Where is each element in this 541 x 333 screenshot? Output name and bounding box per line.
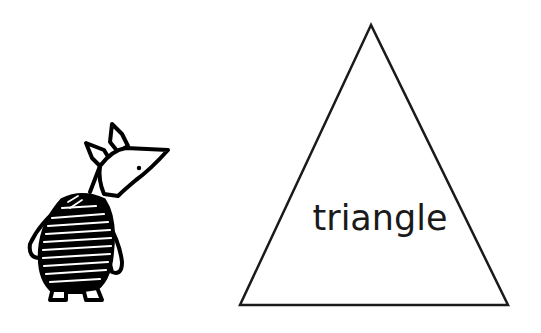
triangle-label: triangle	[300, 193, 460, 243]
triangle-shape	[240, 25, 508, 305]
pig-character-icon	[30, 124, 168, 300]
illustration-canvas	[0, 0, 541, 333]
